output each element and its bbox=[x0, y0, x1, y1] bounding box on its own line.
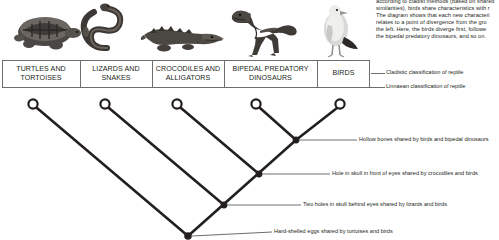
tip-node-crocodiles bbox=[172, 99, 181, 108]
annotation-hollow-bones-label: Hollow bones shared by birds and bipedal… bbox=[359, 136, 489, 142]
annotation-hard-shelled-eggs-label: Hard-shelled eggs shared by tortoises an… bbox=[274, 228, 393, 234]
annotation-skull-hole-front: Hole in skull in front of eyes shared by… bbox=[332, 170, 478, 177]
node-hollow-bones bbox=[293, 137, 300, 144]
branch-turtles bbox=[37, 108, 188, 236]
annotation-skull-holes-behind-label: Two holes in skull behind eyes shared by… bbox=[303, 201, 447, 207]
node-skull-holes-behind bbox=[221, 202, 228, 209]
branch-lizards bbox=[109, 108, 224, 205]
branch-birds bbox=[296, 108, 337, 140]
node-hard-shelled-eggs bbox=[184, 232, 192, 240]
tip-node-lizards bbox=[100, 99, 109, 108]
branch-crocodiles bbox=[181, 108, 259, 174]
annotation-hard-shelled-eggs: Hard-shelled eggs shared by tortoises an… bbox=[274, 228, 393, 235]
tip-node-dinosaurs bbox=[251, 99, 260, 108]
annotation-hollow-bones: Hollow bones shared by birds and bipedal… bbox=[359, 136, 489, 143]
tip-node-birds bbox=[335, 99, 344, 108]
annotation-skull-hole-front-label: Hole in skull in front of eyes shared by… bbox=[332, 170, 478, 176]
leader-hard-shelled-eggs bbox=[192, 232, 272, 236]
annotation-skull-holes-behind: Two holes in skull behind eyes shared by… bbox=[303, 201, 447, 208]
tip-node-turtles bbox=[28, 99, 37, 108]
branch-dinosaurs bbox=[260, 108, 296, 140]
node-skull-hole-front bbox=[256, 171, 263, 178]
